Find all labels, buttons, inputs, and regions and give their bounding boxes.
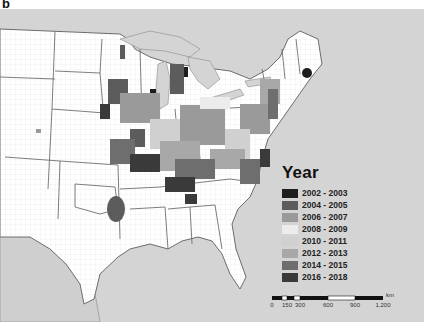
legend-swatch: [282, 261, 298, 270]
scale-tick: 150: [282, 302, 292, 308]
legend-item: 2006 - 2007: [282, 211, 422, 223]
scale-unit: km: [386, 292, 394, 298]
scale-tick: 900: [350, 302, 360, 308]
scale-tick: 300: [295, 302, 305, 308]
legend-label: 2012 - 2013: [302, 248, 347, 258]
legend-swatch: [282, 237, 298, 246]
scale-tick: 1,200: [375, 302, 390, 308]
legend-label: 2014 - 2015: [302, 260, 347, 270]
legend-item: 2010 - 2011: [282, 235, 422, 247]
legend-item: 2016 - 2018: [282, 271, 422, 283]
legend-label: 2010 - 2011: [302, 236, 347, 246]
scale-tick: 600: [323, 302, 333, 308]
legend-swatch: [282, 201, 298, 210]
legend-swatch: [282, 249, 298, 258]
legend-swatch: [282, 273, 298, 282]
legend-item: 2014 - 2015: [282, 259, 422, 271]
legend-item: 2002 - 2003: [282, 187, 422, 199]
legend-swatch: [282, 213, 298, 222]
legend-item: 2012 - 2013: [282, 247, 422, 259]
legend-item: 2004 - 2005: [282, 199, 422, 211]
legend-label: 2004 - 2005: [302, 200, 347, 210]
legend-title: Year: [282, 163, 422, 183]
legend-item: 2008 - 2009: [282, 223, 422, 235]
map-legend: Year 2002 - 2003 2004 - 2005 2006 - 2007…: [282, 163, 422, 283]
legend-label: 2002 - 2003: [302, 188, 347, 198]
legend-swatch: [282, 189, 298, 198]
scale-bar: km 0 150 300 600 900 1,200: [270, 293, 410, 315]
legend-swatch: [282, 225, 298, 234]
scale-tick: 0: [270, 302, 273, 308]
legend-label: 2016 - 2018: [302, 272, 347, 282]
legend-label: 2006 - 2007: [302, 212, 347, 222]
legend-label: 2008 - 2009: [302, 224, 347, 234]
